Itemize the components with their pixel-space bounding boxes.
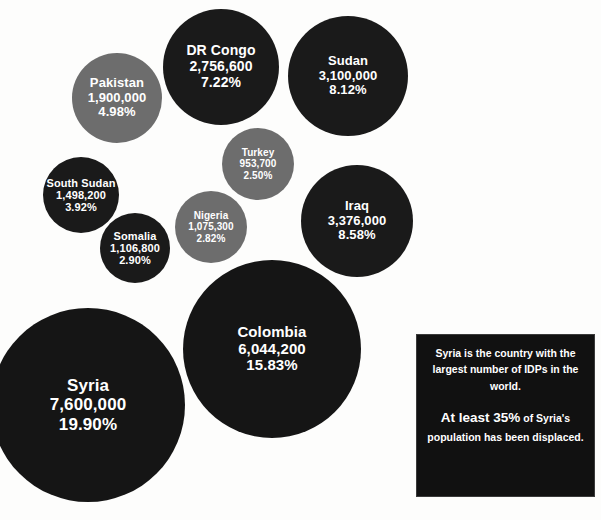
note-paragraph-2: At least 35% of Syria's population has b…: [426, 408, 585, 445]
bubble-label-name: Somalia: [114, 230, 157, 242]
bubble-pakistan: Pakistan1,900,0004.98%: [72, 53, 162, 143]
bubble-label-name: Nigeria: [194, 210, 229, 221]
bubble-label-name: South Sudan: [47, 177, 116, 189]
bubble-label-value: 1,498,200: [56, 189, 106, 201]
bubble-dr-congo: DR Congo2,756,6007.22%: [163, 9, 279, 125]
bubble-south-sudan: South Sudan1,498,2003.92%: [43, 157, 119, 233]
note-paragraph-1: Syria is the country with the largest nu…: [426, 345, 585, 394]
bubble-syria: Syria7,600,00019.90%: [0, 308, 185, 502]
bubble-iraq: Iraq3,376,0008.58%: [301, 165, 413, 277]
bubble-label-percent: 2.82%: [197, 233, 226, 244]
bubble-label-percent: 19.90%: [59, 415, 117, 434]
bubble-label-value: 1,900,000: [88, 91, 147, 106]
bubble-label-name: Sudan: [328, 54, 368, 69]
bubble-somalia: Somalia1,106,8002.90%: [100, 213, 170, 283]
bubble-sudan: Sudan3,100,0008.12%: [288, 16, 408, 136]
bubble-turkey: Turkey953,7002.50%: [222, 128, 294, 200]
callout-note: Syria is the country with the largest nu…: [416, 334, 595, 497]
bubble-label-name: Syria: [67, 376, 109, 395]
bubble-label-value: 3,376,000: [328, 214, 387, 229]
bubble-label-value: 6,044,200: [238, 341, 306, 358]
bubble-label-percent: 3.92%: [65, 201, 97, 213]
bubble-label-percent: 4.98%: [98, 105, 135, 120]
bubble-label-name: DR Congo: [186, 43, 255, 59]
bubble-label-value: 3,100,000: [319, 69, 378, 84]
bubble-label-value: 1,075,300: [188, 221, 233, 232]
bubble-label-name: Turkey: [242, 147, 275, 158]
bubble-label-percent: 15.83%: [246, 357, 297, 374]
bubble-label-name: Iraq: [345, 199, 369, 214]
bubble-colombia: Colombia6,044,20015.83%: [183, 260, 361, 438]
bubble-nigeria: Nigeria1,075,3002.82%: [175, 191, 247, 263]
bubble-label-value: 1,106,800: [110, 242, 160, 254]
bubble-label-name: Pakistan: [90, 76, 144, 91]
bubble-label-percent: 8.12%: [329, 83, 366, 98]
bubble-label-value: 2,756,600: [189, 59, 252, 75]
bubble-label-value: 7,600,000: [50, 395, 127, 414]
bubble-label-percent: 2.90%: [119, 254, 151, 266]
note-strong-text: At least 35%: [441, 410, 521, 425]
bubble-label-value: 953,700: [240, 158, 277, 169]
bubble-label-percent: 7.22%: [201, 75, 241, 91]
bubble-label-percent: 2.50%: [244, 170, 273, 181]
bubble-label-name: Colombia: [237, 324, 306, 341]
bubble-label-percent: 8.58%: [338, 228, 375, 243]
